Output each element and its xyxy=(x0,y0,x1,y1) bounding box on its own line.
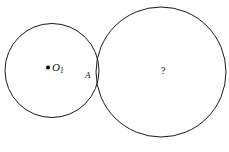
label-unknown-question-mark: ? xyxy=(161,66,165,76)
label-center-o1-subscript: 1 xyxy=(60,66,64,75)
figure-canvas: O1 A ? xyxy=(0,0,229,152)
center-point-o1 xyxy=(46,66,50,70)
label-center-o1-base: O xyxy=(52,61,60,73)
label-tangent-point-a: A xyxy=(85,71,91,80)
geometry-diagram xyxy=(0,0,229,152)
label-center-o1: O1 xyxy=(52,62,64,75)
